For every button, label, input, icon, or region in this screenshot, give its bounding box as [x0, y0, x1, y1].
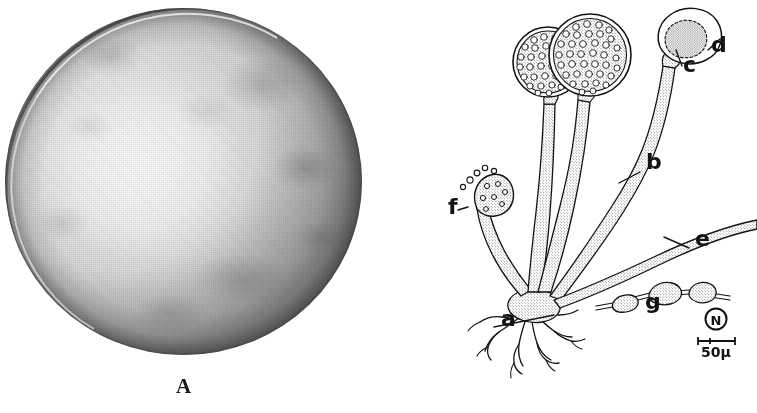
label-d: d — [711, 32, 727, 57]
fungus-drawing-svg: a b c d e f g N 50μ — [378, 0, 757, 413]
panel-a-petri-dish: A — [0, 0, 378, 413]
figure-plate: A — [0, 0, 757, 413]
label-c: c — [683, 52, 696, 77]
label-f: f — [448, 194, 458, 219]
label-g: g — [645, 289, 661, 314]
scale-bar-label: 50μ — [701, 344, 731, 360]
chlamydospores-hypha — [596, 282, 730, 312]
panel-b-line-drawing: a b c d e f g N 50μ B — [378, 0, 757, 413]
label-a: a — [501, 306, 516, 331]
scale-bar-group: N 50μ — [698, 309, 735, 361]
panel-a-letter: A — [176, 374, 192, 399]
sporangiophore-young — [460, 165, 531, 296]
label-b: b — [646, 149, 662, 174]
label-e: e — [695, 226, 710, 251]
dish-outline — [5, 8, 362, 355]
monogram-letter: N — [711, 313, 722, 328]
